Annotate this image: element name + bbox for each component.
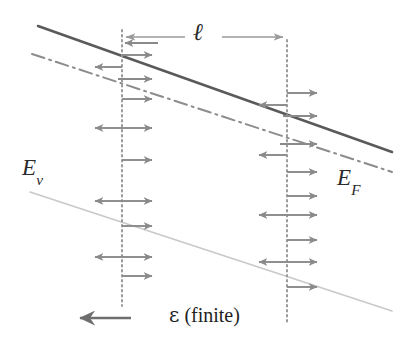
fermi-level-line [32,54,392,172]
field-qualifier: (finite) [179,304,240,326]
length-label: ℓ [193,18,203,46]
fermi-level-label-base: E [337,165,351,190]
region-boundaries [122,30,287,322]
fermi-level-label-subscript: F [351,181,360,198]
field-symbol: ε [169,303,179,327]
valence-band-label-base: E [22,155,36,180]
band-diagram-figure: Ev EF ℓ ε (finite) [0,0,413,352]
field-label: ε (finite) [169,303,240,327]
fermi-level-label: EF [337,165,360,195]
valence-band-line [30,192,392,311]
valence-band-label: Ev [22,155,43,185]
conduction-band-line [38,26,392,152]
valence-band-label-subscript: v [36,171,43,188]
